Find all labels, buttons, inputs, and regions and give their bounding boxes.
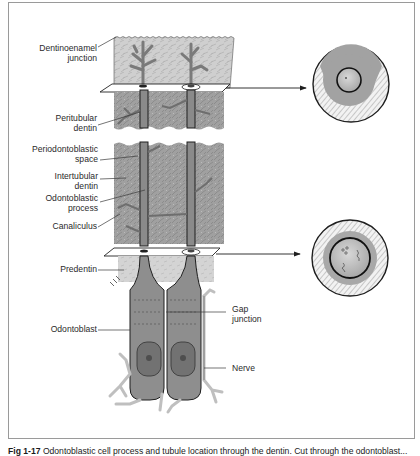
outer-dentin-zone	[114, 37, 234, 89]
label-periodontoblastic-space: Periodontoblastic space	[12, 145, 98, 164]
upper-section-plane	[100, 84, 230, 92]
label-odontoblastic-process: Odontoblastic process	[20, 194, 98, 213]
label-nerve: Nerve	[232, 364, 292, 374]
lower-section-plane	[104, 248, 220, 256]
label-gap-junction: Gap junction	[232, 305, 292, 324]
label-odontoblast: Odontoblast	[20, 325, 97, 335]
label-dentinoenamel-junction: Dentinoenamel junction	[20, 44, 97, 63]
nerve-fibers	[110, 290, 222, 412]
label-canaliculus: Canaliculus	[20, 222, 97, 232]
label-peritubular-dentin: Peritubular dentin	[20, 114, 97, 133]
figure-caption: Fig 1-17 Odontoblastic cell process and …	[8, 446, 407, 456]
cross-section-lower	[312, 220, 388, 296]
label-intertubular-dentin: Intertubular dentin	[20, 172, 98, 191]
dentin-block-upper	[114, 92, 224, 130]
caption-label: Fig 1-17	[8, 446, 40, 456]
label-predentin: Predentin	[20, 265, 97, 275]
cross-section-upper	[313, 44, 389, 122]
predentin-zone	[118, 256, 214, 282]
caption-text: Odontoblastic cell process and tubule lo…	[43, 446, 408, 456]
